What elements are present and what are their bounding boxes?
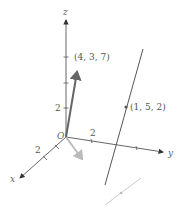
y-tick bbox=[91, 139, 92, 143]
z-axis bbox=[64, 20, 69, 137]
y-axis-label: y bbox=[167, 148, 174, 158]
projected-point bbox=[120, 192, 123, 195]
z-axis-label: z bbox=[62, 7, 68, 17]
parametric-line bbox=[105, 49, 143, 185]
x-axis bbox=[20, 137, 66, 178]
x-tick bbox=[43, 156, 47, 160]
projected-line bbox=[105, 178, 141, 205]
direction-vector bbox=[66, 72, 77, 137]
3d-diagram: z 2 x 2 y 2 O (4, 3, 7) (1, 5, 2) bbox=[0, 0, 184, 219]
y-tick bbox=[136, 146, 137, 150]
line-point bbox=[124, 105, 127, 108]
y-tick-label: 2 bbox=[90, 128, 96, 138]
x-tick-label: 2 bbox=[35, 145, 41, 155]
projection-vector bbox=[66, 137, 82, 159]
origin-label: O bbox=[57, 131, 65, 141]
vector-label: (4, 3, 7) bbox=[74, 52, 110, 62]
x-axis-label: x bbox=[10, 174, 15, 184]
z-tick-label: 2 bbox=[55, 103, 61, 113]
line-point-label: (1, 5, 2) bbox=[130, 102, 166, 112]
